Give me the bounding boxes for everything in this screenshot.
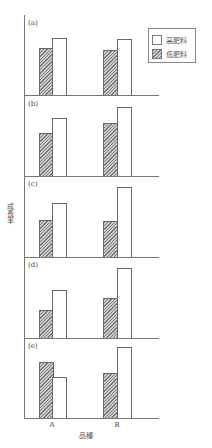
legend-swatch-hatched-icon [152,49,162,59]
legend-label-low: 低肥料 [166,49,187,59]
panel-label: (a) [28,19,38,27]
bar-high-b [117,268,132,339]
y-axis-label: 成長率 [4,203,14,224]
y-axis-line [24,15,25,419]
panel-label: (e) [28,342,38,350]
bar-low-b [103,123,118,177]
legend: 高肥料 低肥料 [148,28,196,63]
bar-high-b [117,347,132,419]
bar-high-a [52,118,67,177]
panel-divider [24,338,159,339]
bar-high-b [117,107,132,177]
bar-high-a [52,203,67,258]
x-tick-a: A [46,421,58,429]
panel-divider [24,257,159,258]
bar-low-b [103,373,118,419]
x-axis-line [24,418,159,419]
bar-high-b [117,39,132,96]
panel-label: (d) [28,261,38,269]
x-tick-b: B [111,421,123,429]
bar-high-a [52,38,67,96]
legend-item-high: 高肥料 [152,34,187,45]
bar-high-b [117,187,132,258]
legend-item-low: 低肥料 [152,48,187,59]
panel-label: (b) [28,100,38,108]
panel-label: (c) [28,180,37,188]
bar-low-b [103,50,118,96]
bar-low-b [103,221,118,258]
x-axis-label: 品種 [74,430,98,440]
panel-divider [24,95,159,96]
bar-high-a [52,290,67,339]
panel-divider [24,176,159,177]
bar-low-b [103,298,118,339]
legend-swatch-white-icon [152,35,162,45]
legend-label-high: 高肥料 [166,35,187,45]
bar-high-a [52,377,67,419]
